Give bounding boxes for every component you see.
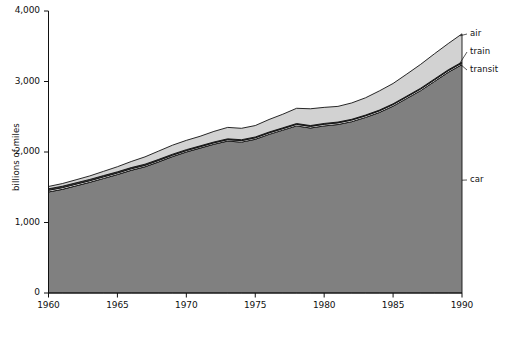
y-tick-label-4000: 4,000 — [0, 5, 40, 15]
y-axis-title: billions of miles — [11, 97, 21, 217]
y-tick-label-0: 0 — [0, 287, 40, 297]
x-tick-label-1975: 1975 — [233, 300, 277, 310]
area-bands — [49, 34, 463, 293]
x-tick-label-1960: 1960 — [27, 300, 71, 310]
x-tick-label-1985: 1985 — [371, 300, 415, 310]
x-tick-label-1980: 1980 — [302, 300, 346, 310]
y-tick-label-3000: 3,000 — [0, 76, 40, 86]
series-label-train: train — [470, 46, 490, 56]
stacked-area-chart: billions of miles 01,0002,0003,0004,000 … — [0, 0, 505, 349]
x-tick-label-1970: 1970 — [164, 300, 208, 310]
series-label-air: air — [470, 28, 481, 38]
series-label-car: car — [470, 174, 484, 184]
y-tick-label-1000: 1,000 — [0, 217, 40, 227]
y-tick-label-2000: 2,000 — [0, 146, 40, 156]
x-tick-label-1965: 1965 — [95, 300, 139, 310]
plot-area — [0, 0, 505, 349]
x-tick-label-1990: 1990 — [440, 300, 484, 310]
series-label-transit: transit — [470, 64, 498, 74]
